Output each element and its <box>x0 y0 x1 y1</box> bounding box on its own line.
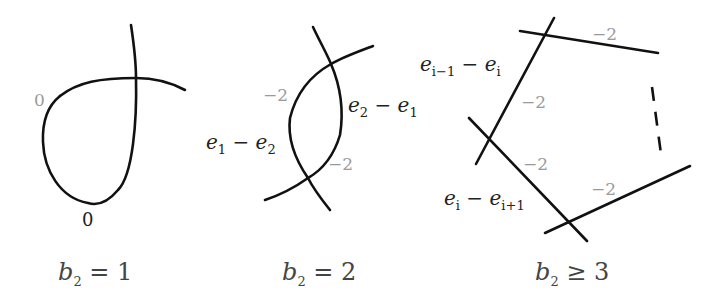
self-intersection-label-left-lower: −2 <box>523 154 548 174</box>
self-intersection-label-grey: 0 <box>34 90 45 110</box>
caption-b2-eq-2: b2 = 2 <box>282 258 356 289</box>
panel-b2-geq-3: −2 −2 −2 −2 ei−1 − ei ei − ei+1 b2 ≥ 3 <box>420 18 690 289</box>
curve-label-e-im1-minus-e-i: ei−1 − ei <box>420 52 501 79</box>
curve-label-e2-minus-e1: e2 − e1 <box>348 93 418 120</box>
curve-label-e-i-minus-e-ip1: ei − ei+1 <box>444 186 525 213</box>
caption-b2-geq-3: b2 ≥ 3 <box>535 258 609 289</box>
self-intersection-label-top: −2 <box>592 24 617 44</box>
self-intersection-label-top: −2 <box>263 85 288 105</box>
self-intersection-label-left-upper: −2 <box>521 92 546 112</box>
caption-b2-eq-1: b2 = 1 <box>58 258 132 289</box>
self-intersection-label-black: 0 <box>82 209 93 230</box>
curve-configuration-figure: 0 0 b2 = 1 −2 −2 e1 − e2 e2 − e1 b2 = 2 … <box>0 0 724 305</box>
line-e-im1-minus-e-i <box>476 18 554 164</box>
self-intersection-label-bottom: −2 <box>591 179 616 199</box>
curve-e2-minus-e1 <box>308 27 342 210</box>
nodal-curve-vertical-strand <box>43 25 136 204</box>
self-intersection-label-bottom: −2 <box>328 154 353 174</box>
nodal-curve-horizontal-strand <box>60 78 185 96</box>
panel-b2-eq-1: 0 0 b2 = 1 <box>34 25 185 289</box>
curve-label-e1-minus-e2: e1 − e2 <box>206 130 276 157</box>
curve-e1-minus-e2 <box>265 46 373 200</box>
panel-b2-eq-2: −2 −2 e1 − e2 e2 − e1 b2 = 2 <box>206 27 418 289</box>
line-bottom <box>545 166 690 233</box>
dashed-continuation <box>652 87 661 154</box>
